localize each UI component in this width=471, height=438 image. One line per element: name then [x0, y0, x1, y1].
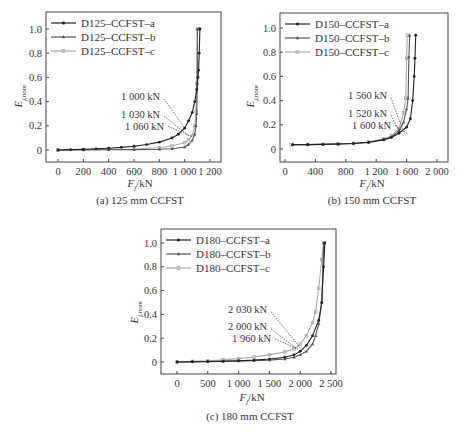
legend-label: D125–CCFST–c — [81, 45, 155, 57]
data-point — [191, 360, 194, 363]
data-point — [409, 117, 412, 120]
annotation-leader — [168, 126, 192, 136]
data-point — [107, 147, 110, 150]
x-axis-label-a: Fj/kN — [110, 177, 170, 192]
data-point — [405, 126, 408, 129]
x-tick-label: 2 000 — [425, 166, 449, 175]
y-tick-label: 0.4 — [29, 96, 43, 107]
data-point — [237, 359, 240, 362]
data-point — [414, 57, 417, 60]
data-point — [193, 100, 196, 103]
data-point — [291, 143, 294, 146]
data-point — [268, 358, 271, 361]
y-axis-label-a: Ej,nom — [12, 68, 27, 108]
data-point — [390, 136, 393, 139]
y-tick-label: 0.6 — [29, 72, 42, 83]
x-tick-label: 600 — [126, 166, 142, 175]
y-tick-label: 0.4 — [144, 309, 158, 320]
chart-b: 00.20.40.60.81.004008001 2001 6002 000D1… — [235, 0, 471, 175]
x-tick-label: 800 — [338, 166, 354, 175]
y-tick-label: 0.2 — [263, 119, 276, 130]
data-point — [120, 146, 123, 149]
data-point — [176, 361, 179, 364]
data-point — [195, 88, 198, 91]
y-tick-label: 0 — [152, 357, 157, 368]
data-point — [158, 141, 161, 144]
chart-a: 00.20.40.60.81.002004006008001 0001 200D… — [0, 0, 235, 175]
data-point — [171, 137, 174, 140]
annotation-leader — [271, 312, 302, 350]
data-point — [293, 353, 296, 356]
data-point — [69, 148, 72, 151]
x-tick-label: 0 — [282, 166, 287, 175]
legend-label: D150–CCFST–b — [315, 32, 390, 44]
data-point — [311, 334, 314, 337]
annotation-label: 2 030 kN — [228, 304, 268, 315]
annotation-label: 1 030 kN — [121, 109, 161, 120]
annotation-label: 1 060 kN — [125, 121, 165, 132]
y-axis-label-c: Ej,nom — [128, 284, 143, 324]
data-point — [283, 356, 286, 359]
data-point — [306, 143, 309, 146]
data-point — [382, 139, 385, 142]
x-tick-label: 2 500 — [319, 378, 343, 389]
x-tick-label: 1 600 — [395, 166, 419, 175]
x-tick-label: 2 000 — [288, 378, 312, 389]
y-tick-label: 0 — [37, 145, 42, 156]
legend-label: D180–CCFST–b — [196, 248, 271, 260]
data-point — [405, 107, 408, 110]
data-point — [187, 120, 190, 123]
x-tick-label: 1 000 — [173, 166, 197, 175]
data-point — [305, 344, 308, 347]
x-tick-label: 800 — [151, 166, 167, 175]
data-point — [133, 145, 136, 148]
data-point — [314, 334, 317, 337]
data-point — [402, 121, 405, 124]
data-point — [197, 69, 200, 72]
x-tick-label: 400 — [308, 166, 324, 175]
y-tick-label: 0.2 — [29, 120, 42, 131]
annotation-label: 1 600 kN — [352, 120, 392, 131]
data-point — [323, 242, 326, 245]
y-tick-label: 1.0 — [263, 23, 276, 34]
data-point — [367, 141, 370, 144]
annotation-leader — [164, 116, 188, 135]
caption-b: (b) 150 mm CCFST — [302, 194, 442, 206]
y-tick-label: 0.6 — [263, 71, 276, 82]
legend-label: D180–CCFST–c — [196, 262, 270, 274]
x-tick-label: 500 — [200, 378, 216, 389]
data-point — [177, 133, 180, 136]
y-tick-label: 0 — [271, 144, 276, 155]
x-tick-label: 1 500 — [258, 378, 282, 389]
chart-c: 00.20.40.60.81.005001 0001 5002 0002 500… — [115, 215, 355, 390]
data-point — [317, 319, 320, 322]
y-tick-label: 0.2 — [144, 333, 157, 344]
y-tick-label: 0.8 — [29, 48, 42, 59]
y-tick-label: 1.0 — [144, 238, 157, 249]
data-point — [352, 142, 355, 145]
annotation-label: 1 520 kN — [348, 108, 388, 119]
caption-a: (a) 125 mm CCFST — [70, 194, 210, 206]
annotation-label: 1 000 kN — [121, 91, 161, 102]
caption-c: (c) 180 mm CCFST — [180, 410, 320, 422]
x-axis-label-c: Fj/kN — [222, 391, 282, 406]
y-axis-label-b: Ej,nom — [244, 68, 259, 108]
data-point — [320, 301, 323, 304]
y-tick-label: 0.6 — [144, 285, 157, 296]
x-tick-label: 0 — [174, 378, 179, 389]
data-point — [322, 265, 325, 268]
x-tick-label: 400 — [101, 166, 117, 175]
data-point — [222, 360, 225, 363]
y-tick-label: 0.8 — [144, 261, 157, 272]
x-axis-label-b: Fj/kN — [342, 177, 402, 192]
data-point — [414, 34, 417, 37]
legend-label: D150–CCFST–c — [315, 46, 389, 58]
data-point — [322, 143, 325, 146]
annotation-label: 1 960 kN — [232, 333, 272, 344]
data-point — [206, 360, 209, 363]
x-tick-label: 1 200 — [198, 166, 222, 175]
legend-label: D125–CCFST–a — [81, 17, 155, 29]
y-tick-label: 0.8 — [263, 47, 276, 58]
x-tick-label: 200 — [75, 166, 91, 175]
data-point — [253, 359, 256, 362]
